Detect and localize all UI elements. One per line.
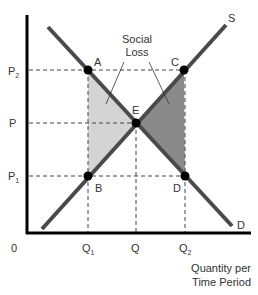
price-label-p2: P2 — [8, 65, 19, 79]
point-b-marker — [84, 172, 93, 181]
supply-demand-diagram: A C E B D Social Loss S D P2 P P1 0 Q1 Q… — [0, 0, 258, 295]
quantity-label-q1: Q1 — [82, 242, 95, 256]
x-axis-title-line1: Quantity per — [191, 262, 251, 274]
point-e-marker — [132, 119, 141, 128]
social-loss-label-line1: Social — [122, 33, 152, 45]
demand-label: D — [237, 219, 245, 231]
point-c-label: C — [171, 56, 179, 68]
point-a-marker — [84, 66, 93, 75]
supply-label: S — [228, 12, 235, 24]
quantity-label-q2: Q2 — [179, 242, 192, 256]
price-label-p1: P1 — [8, 170, 19, 184]
point-d-label: D — [173, 182, 181, 194]
social-loss-label-line2: Loss — [125, 46, 149, 58]
point-d-marker — [181, 172, 190, 181]
point-c-marker — [180, 66, 189, 75]
point-b-label: B — [95, 182, 102, 194]
origin-label: 0 — [11, 242, 17, 254]
quantity-label-q: Q — [131, 242, 140, 254]
x-axis-title-line2: Time Period — [192, 276, 251, 288]
point-e-label: E — [132, 104, 139, 116]
point-a-label: A — [94, 56, 102, 68]
price-label-p: P — [9, 117, 16, 129]
